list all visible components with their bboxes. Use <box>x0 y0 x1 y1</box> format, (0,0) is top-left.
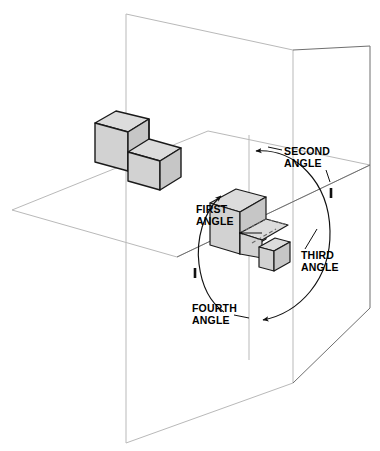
leader-second-angle <box>268 147 282 150</box>
l-block-tall-front-face <box>95 123 128 171</box>
label-fourth-angle-line1: FOURTH <box>192 302 237 314</box>
small-block-front-face <box>259 247 274 271</box>
projection-quadrant-diagram: SECOND ANGLE FIRST ANGLE THIRD ANGLE FOU… <box>0 0 380 451</box>
label-first-angle-line1: FIRST <box>196 203 228 215</box>
leader-second-angle-down <box>326 170 330 182</box>
leader-fourth-angle <box>234 315 249 318</box>
vertical-plane-right-wing <box>293 46 370 383</box>
label-second-angle-line1: SECOND <box>284 145 330 157</box>
object-projected-third-angle <box>259 238 290 271</box>
label-first-angle: FIRST ANGLE <box>196 203 234 227</box>
label-third-angle-line2: ANGLE <box>301 261 339 273</box>
label-third-angle-line1: THIRD <box>301 249 334 261</box>
l-shaped-object-first-angle-position <box>95 111 181 190</box>
label-first-angle-line2: ANGLE <box>196 215 234 227</box>
projection-diagram-canvas: SECOND ANGLE FIRST ANGLE THIRD ANGLE FOU… <box>0 0 380 451</box>
label-second-angle-line2: ANGLE <box>284 157 322 169</box>
label-second-angle: SECOND ANGLE <box>284 145 333 169</box>
leader-third-angle <box>305 229 317 249</box>
label-fourth-angle: FOURTH ANGLE <box>192 302 240 326</box>
label-fourth-angle-line2: ANGLE <box>192 314 230 326</box>
label-third-angle: THIRD ANGLE <box>301 249 339 273</box>
projection-planes-group <box>12 14 370 443</box>
